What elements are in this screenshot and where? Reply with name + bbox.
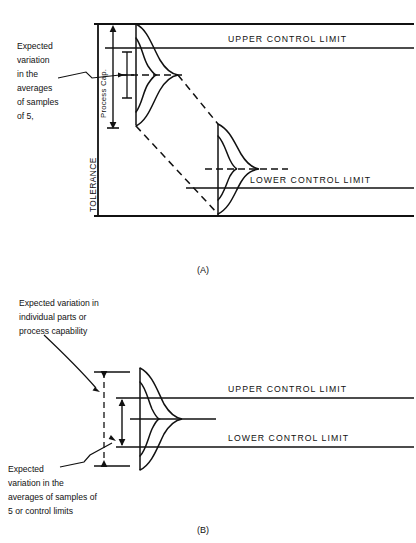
panel-b-top-annotation-line-2: individual parts or xyxy=(19,312,86,322)
panel-b-bottom-annotation-arrowhead xyxy=(109,435,116,441)
panel-a-annotation-line-4: averages xyxy=(17,83,52,93)
panel-b-top-annotation-text: Expected variation in individual parts o… xyxy=(19,298,99,336)
panel-b-bottom-annotation-line-4: 5 or control limits xyxy=(8,506,73,516)
panel-a-annotation-text: Expected variation in the averages of sa… xyxy=(17,41,59,121)
panel-a-annotation-leader xyxy=(58,72,120,78)
panel-a-annotation-line-3: in the xyxy=(17,69,38,79)
panel-a-annotation-line-6: of 5, xyxy=(17,111,34,121)
panel-a-annotation-line-2: variation xyxy=(17,55,50,65)
panel-b-caption: (B) xyxy=(197,525,209,535)
panel-a-annotation-line-5: of samples xyxy=(17,97,59,107)
panel-b: UPPER CONTROL LIMIT LOWER CONTROL LIMIT xyxy=(8,298,414,535)
panel-a-upper-control-limit-label: UPPER CONTROL LIMIT xyxy=(228,34,347,44)
panel-a-process-capability-arrow xyxy=(107,25,119,129)
panel-a-tolerance-label: TOLERANCE xyxy=(88,157,98,212)
panel-a-drift-line-upper xyxy=(178,75,218,124)
panel-a-drift-line-lower xyxy=(136,126,218,214)
panel-a-caption: (A) xyxy=(197,265,209,275)
panel-a-annotation-arrowhead xyxy=(118,72,124,77)
figure-svg: UPPER CONTROL LIMIT LOWER CONTROL LIMIT … xyxy=(0,0,416,543)
panel-a: UPPER CONTROL LIMIT LOWER CONTROL LIMIT … xyxy=(17,24,414,275)
panel-b-bottom-annotation-line-3: averages of samples of xyxy=(8,492,97,502)
panel-b-top-annotation-line-3: process capability xyxy=(19,326,88,336)
panel-b-top-annotation-line-1: Expected variation in xyxy=(19,298,99,308)
panel-b-bottom-annotation-line-1: Expected xyxy=(8,464,44,474)
panel-a-lower-control-limit-label: LOWER CONTROL LIMIT xyxy=(250,175,371,185)
panel-b-lower-control-limit-label: LOWER CONTROL LIMIT xyxy=(228,433,349,443)
panel-b-averages-extent xyxy=(119,399,126,446)
panel-b-bottom-annotation-text: Expected variation in the averages of sa… xyxy=(8,464,97,516)
panel-a-lower-narrow-curve xyxy=(218,136,237,200)
panel-b-upper-control-limit-label: UPPER CONTROL LIMIT xyxy=(228,384,347,394)
panel-a-annotation-line-1: Expected xyxy=(17,41,53,51)
panel-b-top-annotation-leader xyxy=(44,335,96,388)
panel-b-bottom-annotation-line-2: variation in the xyxy=(8,478,64,488)
control-chart-figure: UPPER CONTROL LIMIT LOWER CONTROL LIMIT … xyxy=(0,0,416,543)
panel-b-capability-extent xyxy=(94,371,130,467)
